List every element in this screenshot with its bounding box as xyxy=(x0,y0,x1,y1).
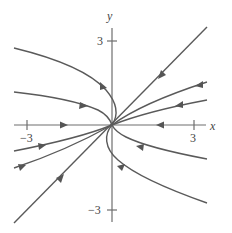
arrow-lower-right-1 xyxy=(136,144,144,151)
arrow-diagonal-upper xyxy=(158,70,166,79)
arrow-x-axis-left xyxy=(60,122,68,129)
trajectory-upper-right-1 xyxy=(112,82,207,125)
x-axis-label: x xyxy=(209,119,216,133)
arrow-upper-left-2 xyxy=(79,102,88,109)
y-tick-label-3: 3 xyxy=(97,34,103,48)
arrow-x-axis-right xyxy=(156,122,164,129)
y-axis-label: y xyxy=(106,9,113,23)
x-tick-label-3: 3 xyxy=(190,131,196,145)
arrow-lower-left-2 xyxy=(18,164,26,171)
phase-portrait: x y −3 3 3 −3 xyxy=(0,0,232,233)
x-tick-label-neg3: −3 xyxy=(20,131,33,145)
arrow-upper-right-1 xyxy=(195,81,203,88)
trajectory-upper-right-2 xyxy=(112,100,207,125)
arrow-lower-right-2 xyxy=(117,164,125,171)
arrow-upper-left-1 xyxy=(100,82,107,90)
y-tick-label-neg3: −3 xyxy=(88,203,101,217)
trajectory-upper-left-2 xyxy=(14,92,112,125)
